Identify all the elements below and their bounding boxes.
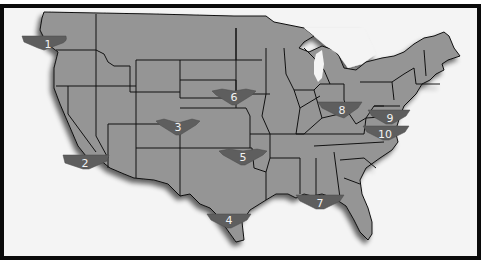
marker-label: 5 <box>240 151 247 164</box>
us-map: 1 2 3 4 5 6 7 <box>4 8 477 256</box>
marker-label: 7 <box>317 197 324 210</box>
marker-label: 2 <box>82 157 89 170</box>
marker-4[interactable]: 4 <box>207 214 251 228</box>
marker-label: 8 <box>339 104 346 117</box>
marker-label: 3 <box>175 121 182 134</box>
marker-label: 10 <box>378 128 392 141</box>
marker-7[interactable]: 7 <box>296 195 344 210</box>
marker-label: 1 <box>45 38 52 51</box>
map-frame: 1 2 3 4 5 6 7 <box>0 4 481 260</box>
marker-label: 4 <box>226 214 233 227</box>
map-canvas: 1 2 3 4 5 6 7 <box>4 8 477 256</box>
marker-2[interactable]: 2 <box>63 155 109 170</box>
marker-label: 6 <box>231 91 238 104</box>
marker-label: 9 <box>387 112 394 125</box>
